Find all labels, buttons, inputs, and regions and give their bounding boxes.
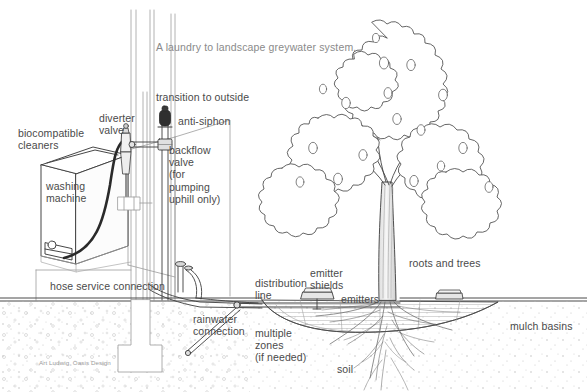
label-hose-service-connection: hose service connection [50,280,165,292]
label-backflow-valve: backflow valve (for pumping uphill only) [169,144,220,205]
label-multiple-zones: multiple zones (if needed) [255,327,306,364]
label-rainwater-connection: rainwater connection [193,313,245,337]
label-washing-machine: washing machine [46,180,86,204]
label-diverter-valve: diverter valve [99,112,135,136]
attribution-credit: Art Ludwig, Oasis Design [39,359,111,366]
label-transition-to-outside: transition to outside [156,91,249,103]
label-roots-and-trees: roots and trees [409,257,481,269]
tree-trunk [379,182,396,300]
label-soil: soil [337,363,353,375]
emitter-shield-right [436,290,463,299]
anti-siphon-valve [158,106,172,127]
label-mulch-basins: mulch basins [510,320,572,332]
label-emitter-shields: emitter shields [310,267,343,291]
label-biocompatible-cleaners: biocompatible cleaners [18,127,84,151]
greywater-diagram: A laundry to landscape greywater system.… [0,0,587,392]
diagram-title: A laundry to landscape greywater system. [156,41,356,53]
label-emitters: emitters [341,293,379,305]
label-distribution-line: distribution line [255,277,307,301]
label-anti-siphon: anti-siphon [178,115,230,127]
